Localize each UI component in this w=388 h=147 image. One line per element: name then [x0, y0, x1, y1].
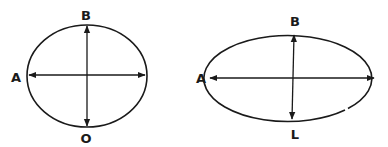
right-label-left: A — [196, 71, 206, 86]
right-vertical-axis — [292, 35, 294, 119]
left-label-left: A — [11, 70, 21, 85]
right-figure: B A L — [196, 14, 374, 142]
left-figure: B A O — [11, 8, 147, 146]
left-label-bottom: O — [80, 131, 91, 146]
right-label-top: B — [290, 14, 300, 29]
left-label-top: B — [81, 8, 91, 23]
right-label-bottom: L — [291, 127, 299, 142]
diagram-canvas: B A O B A L — [0, 0, 388, 147]
